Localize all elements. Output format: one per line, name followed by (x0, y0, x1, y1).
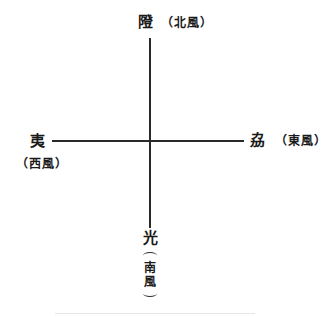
west-label: 夷 (30, 133, 45, 149)
east-label: 劦（東風） (250, 132, 327, 148)
north-char: 隥 (138, 13, 153, 31)
west-gloss: （西風） (16, 157, 68, 171)
east-char: 劦 (250, 131, 265, 149)
west-gloss-label: （西風） (16, 155, 68, 171)
east-gloss: （東風） (275, 134, 327, 148)
south-char: 光 (143, 231, 158, 246)
south-label: 光 南 風 (140, 231, 160, 297)
west-char: 夷 (30, 132, 45, 150)
south-close-paren (143, 290, 157, 297)
horizontal-axis-line (52, 140, 244, 142)
south-gloss-char-1: 南 (144, 261, 156, 275)
north-label: 隥（北風） (138, 14, 213, 30)
north-gloss: （北風） (161, 16, 213, 30)
south-gloss-char-2: 風 (144, 275, 156, 289)
vertical-axis-line (149, 38, 151, 228)
scan-artifact-line (55, 313, 255, 314)
south-open-paren (143, 252, 157, 259)
